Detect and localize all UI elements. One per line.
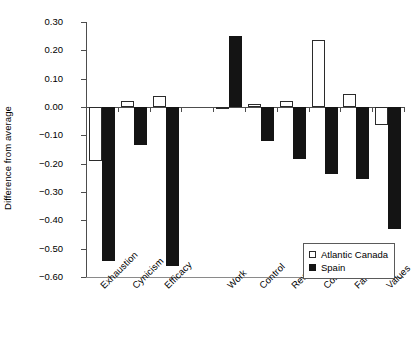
legend-label-spain: Spain xyxy=(321,262,345,273)
x-axis-tick xyxy=(277,107,278,112)
y-axis-tick xyxy=(81,277,86,278)
bar-chart-figure: Difference from average 0.300.200.100.00… xyxy=(0,0,419,346)
y-axis-line xyxy=(86,22,87,277)
legend-item-atlantic-canada: Atlantic Canada xyxy=(309,248,388,261)
bar-atlantic-canada-work xyxy=(216,107,229,109)
bar-atlantic-canada-cynicism xyxy=(121,101,134,107)
x-axis-tick xyxy=(372,107,373,112)
bar-atlantic-canada-control xyxy=(248,104,261,107)
x-axis-tick xyxy=(86,107,87,112)
y-axis-tick xyxy=(81,249,86,250)
legend-item-spain: Spain xyxy=(309,261,388,274)
x-axis-tick xyxy=(245,107,246,112)
y-axis-tick xyxy=(81,164,86,165)
y-axis-tick-label: 0.20 xyxy=(17,45,63,55)
legend-label-atlantic-canada: Atlantic Canada xyxy=(321,249,388,260)
y-axis-tick-label: −0.50 xyxy=(17,244,63,254)
bar-atlantic-canada-reward xyxy=(280,101,293,107)
y-axis-tick-label: −0.30 xyxy=(17,187,63,197)
y-axis-tick xyxy=(81,220,86,221)
x-axis-tick xyxy=(340,107,341,112)
y-axis-tick xyxy=(81,192,86,193)
bar-atlantic-canada-community xyxy=(312,40,325,107)
y-axis-tick xyxy=(81,22,86,23)
y-axis-tick-label: 0.30 xyxy=(17,17,63,27)
bar-atlantic-canada-values xyxy=(375,107,388,125)
bar-spain-values xyxy=(388,107,401,229)
bar-atlantic-canada-efficacy xyxy=(153,96,166,107)
legend-swatch-filled-square-icon xyxy=(309,264,316,271)
y-axis-tick-label: 0.10 xyxy=(17,74,63,84)
plot-area: 0.300.200.100.00−0.10−0.20−0.30−0.40−0.5… xyxy=(86,22,404,277)
y-axis-tick-label: −0.60 xyxy=(17,272,63,282)
bar-spain-work xyxy=(229,36,242,107)
y-axis-tick xyxy=(81,135,86,136)
x-axis-tick xyxy=(404,107,405,112)
x-axis-tick xyxy=(181,107,182,112)
bar-spain-exhaustion xyxy=(102,107,115,261)
y-axis-tick xyxy=(81,79,86,80)
bar-atlantic-canada-fairness xyxy=(343,94,356,107)
y-axis-tick-label: −0.40 xyxy=(17,215,63,225)
legend: Atlantic Canada Spain xyxy=(303,243,395,279)
y-axis-tick-label: −0.20 xyxy=(17,159,63,169)
y-axis-tick-label: 0.00 xyxy=(17,102,63,112)
y-axis-tick-label: −0.10 xyxy=(17,130,63,140)
y-axis-tick xyxy=(81,50,86,51)
bar-spain-cynicism xyxy=(134,107,147,145)
x-axis-tick xyxy=(150,107,151,112)
bar-atlantic-canada-exhaustion xyxy=(89,107,102,161)
x-axis-tick xyxy=(213,107,214,112)
legend-swatch-open-square-icon xyxy=(309,251,316,258)
bar-spain-community xyxy=(325,107,338,174)
x-axis-tick xyxy=(118,107,119,112)
bar-spain-reward xyxy=(293,107,306,159)
bar-spain-control xyxy=(261,107,274,141)
y-axis-title-text: Difference from average xyxy=(2,88,13,228)
x-axis-tick xyxy=(309,107,310,112)
y-axis-title: Difference from average xyxy=(2,0,13,88)
bar-spain-efficacy xyxy=(166,107,179,266)
bar-spain-fairness xyxy=(356,107,369,179)
